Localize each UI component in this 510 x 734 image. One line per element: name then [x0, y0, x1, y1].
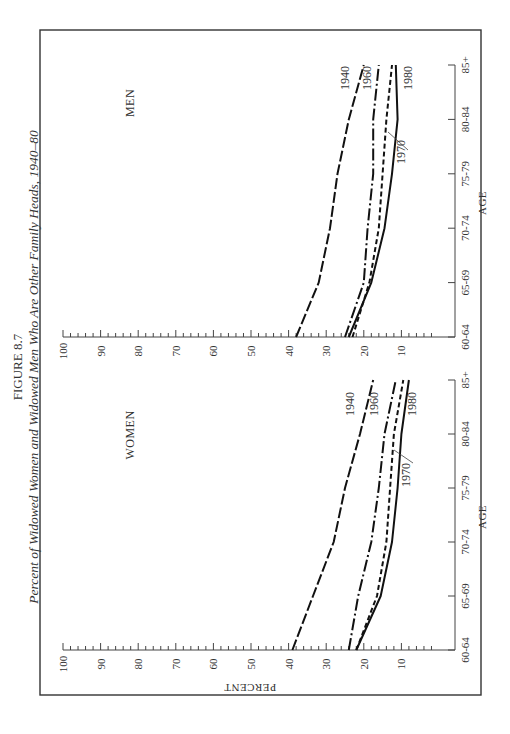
series-line-1980: [349, 65, 398, 337]
series-label-1980: 1980: [405, 392, 419, 416]
panel-label: MEN: [123, 89, 137, 117]
percent-tick-label: 60: [207, 345, 219, 357]
age-tick-label: 65-69: [459, 269, 471, 295]
percent-tick-label: 90: [95, 658, 107, 670]
figure-frame: [40, 30, 481, 695]
age-tick-label: 60-64: [459, 637, 471, 663]
percent-tick-label: 50: [245, 345, 257, 357]
age-axis-title: AGE: [476, 191, 488, 215]
panel-men: 10090807060504030201060-6465-6970-7475-7…: [57, 56, 488, 359]
age-tick-label: 65-69: [459, 583, 471, 609]
leader-line-1970: [394, 450, 413, 463]
age-tick-label: 60-64: [459, 324, 471, 350]
percent-tick-label: 10: [395, 345, 407, 357]
percent-tick-label: 100: [57, 342, 69, 359]
percent-tick-label: 100: [57, 655, 69, 672]
percent-tick-label: 80: [132, 345, 144, 357]
age-tick-label: 80-84: [459, 106, 471, 132]
series-label-1970: 1970: [399, 463, 413, 487]
series-line-1940: [296, 65, 364, 337]
age-tick-label: 75-79: [459, 160, 471, 186]
age-tick-label: 85+: [459, 371, 471, 388]
panel-label: WOMEN: [123, 410, 137, 459]
series-label-1960: 1960: [367, 392, 381, 416]
figure-number: FIGURE 8.7: [10, 333, 25, 400]
panel-women: 10090807060504030201060-6465-6970-7475-7…: [57, 371, 488, 694]
percent-tick-label: 70: [170, 345, 182, 357]
percent-tick-label: 90: [95, 345, 107, 357]
series-label-1960: 1960: [360, 66, 374, 90]
series-label-1980: 1980: [401, 66, 415, 90]
age-tick-label: 70-74: [459, 215, 471, 241]
percent-tick-label: 40: [283, 658, 295, 670]
age-tick-label: 70-74: [459, 529, 471, 555]
age-tick-label: 85+: [459, 56, 471, 73]
figure-title: Percent of Widowed Women and Widowed Men…: [26, 130, 41, 605]
percent-axis-title: PERCENT: [224, 682, 276, 694]
age-tick-label: 75-79: [459, 475, 471, 501]
percent-tick-label: 60: [207, 658, 219, 670]
age-axis-title: AGE: [476, 505, 488, 529]
age-tick-label: 80-84: [459, 421, 471, 447]
percent-tick-label: 50: [245, 658, 257, 670]
figure-canvas: FIGURE 8.7 Percent of Widowed Women and …: [0, 0, 510, 734]
percent-tick-label: 40: [283, 345, 295, 357]
percent-tick-label: 70: [170, 658, 182, 670]
percent-tick-label: 10: [395, 658, 407, 670]
percent-tick-label: 20: [358, 345, 370, 357]
percent-tick-label: 30: [320, 658, 332, 670]
series-label-1940: 1940: [338, 66, 352, 90]
percent-tick-label: 30: [320, 345, 332, 357]
series-line-1940: [292, 380, 373, 650]
percent-tick-label: 80: [132, 658, 144, 670]
series-label-1940: 1940: [343, 392, 357, 416]
percent-tick-label: 20: [358, 658, 370, 670]
series-line-1960: [345, 65, 379, 337]
